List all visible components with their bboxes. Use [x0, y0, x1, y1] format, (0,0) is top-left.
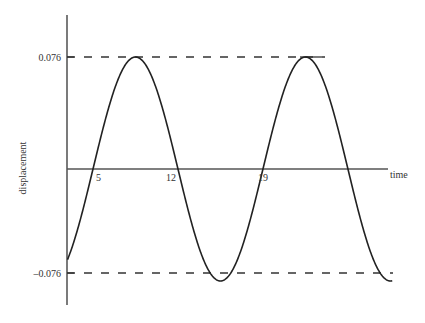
y-tick-label-max: 0.076 [39, 52, 62, 63]
x-tick-label-12: 12 [166, 172, 176, 183]
sine-displacement-chart: 0.076 –0.076 5 12 19 time displacement [0, 0, 425, 323]
x-tick-label-5: 5 [96, 172, 101, 183]
x-tick-label-19: 19 [258, 172, 268, 183]
x-axis-label: time [390, 169, 408, 180]
y-tick-label-min: –0.076 [33, 268, 62, 279]
y-axis-label: displacement [17, 141, 28, 194]
